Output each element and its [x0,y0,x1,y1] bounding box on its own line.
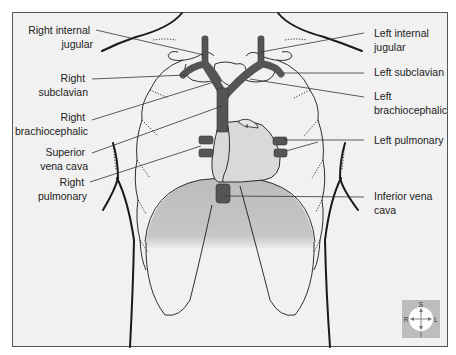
right-side-labels: Right internal jugular Right subclavian … [15,24,93,202]
right-pulmonary-vein-upper [199,136,213,144]
left-pulmonary-vein-upper [273,137,287,145]
right-pulmonary-vein-lower [199,149,213,157]
label-left-subclavian: Left subclavian [374,66,444,78]
label-right-brachiocephalic: Right brachiocephalic [15,111,88,137]
label-left-pulmonary: Left pulmonary [374,134,444,146]
thorax-vein-diagram: Right internal jugular Right subclavian … [0,0,456,355]
superior-vena-cava-vein [217,88,228,132]
compass-inferior: I [420,331,422,338]
compass-left: L [434,316,438,323]
orientation-compass: S I R L [402,300,440,338]
left-pulmonary-vein-lower [274,149,287,157]
label-right-internal-jugular: Right internal jugular [28,24,93,50]
inferior-vena-cava-vein [216,184,230,203]
compass-superior: S [419,301,424,308]
compass-right: R [404,316,409,323]
left-side-labels: Left internal jugular Left subclavian Le… [373,27,447,216]
label-inferior-vena-cava: Inferior vena cava [374,190,435,216]
label-superior-vena-cava: Superior vena cava [40,146,88,172]
label-left-internal-jugular: Left internal jugular [373,27,432,53]
label-left-brachiocephalic: Left brachiocephalic [374,90,447,116]
label-right-pulmonary: Right pulmonary [38,176,88,202]
left-internal-jugular-vein [258,36,264,64]
label-right-subclavian: Right subclavian [38,72,88,98]
right-internal-jugular-vein [202,36,208,64]
left-brachiocephalic-vein [224,64,261,98]
